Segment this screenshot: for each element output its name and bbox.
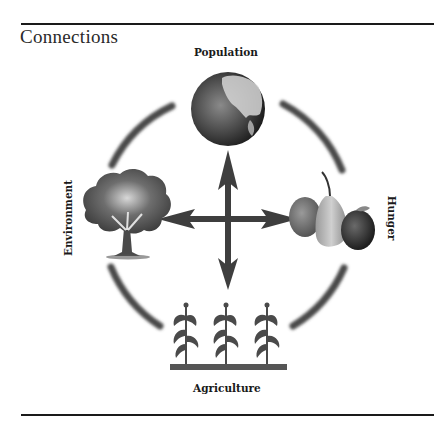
corn-crops-icon — [170, 303, 287, 371]
globe-icon — [191, 72, 265, 146]
corn-stalk-3 — [255, 303, 280, 365]
bottom-rule — [21, 414, 434, 416]
label-population: Population — [194, 46, 258, 58]
corn-stalk-2 — [214, 303, 239, 365]
tree-icon — [83, 169, 171, 260]
soil-strip — [170, 364, 287, 370]
arc-bottom-right — [293, 268, 344, 326]
label-agriculture: Agriculture — [193, 382, 261, 394]
fruit-icon — [289, 172, 375, 250]
label-hunger: Hunger — [386, 196, 398, 241]
arc-top-left — [112, 106, 172, 165]
arc-bottom-left — [111, 267, 160, 326]
corn-stalk-1 — [174, 303, 199, 365]
four-way-arrow-icon — [158, 150, 298, 290]
arc-top-right — [283, 104, 342, 170]
label-environment: Environment — [62, 180, 74, 256]
